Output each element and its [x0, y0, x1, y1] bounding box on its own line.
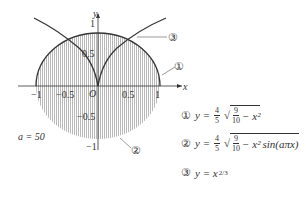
legend-formula-3: ③ y = x2/3	[181, 166, 228, 179]
callout-2: ②	[131, 145, 141, 155]
x-tick: 0.5	[122, 90, 135, 100]
param-label: a = 50	[18, 132, 45, 142]
legend-formula-2: ② y = 45 √910− x²sin(aπx)	[181, 133, 299, 153]
y-tick: 1	[90, 19, 95, 29]
callout-3: ③	[168, 32, 178, 42]
y-tick: −0.5	[77, 112, 95, 122]
callout-1: ①	[174, 61, 184, 71]
x-tick: −0.5	[56, 90, 74, 100]
plot-canvas	[0, 0, 306, 197]
x-tick: −1	[31, 90, 42, 100]
y-tick: 0.5	[82, 49, 95, 59]
x-tick: 1	[155, 90, 160, 100]
x-axis-label: x	[183, 82, 187, 92]
y-tick: −1	[86, 142, 97, 152]
legend-formula-1: ① y = 45 √910− x²	[181, 105, 260, 125]
origin-label: O	[89, 89, 96, 99]
